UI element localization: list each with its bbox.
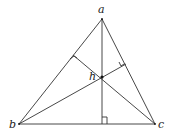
label-h: h bbox=[89, 70, 96, 83]
vertex-b-point bbox=[18, 123, 20, 125]
orthocenter-diagram: a b c h bbox=[0, 0, 173, 137]
right-angle-mark-bc bbox=[102, 117, 107, 124]
triangle-abc bbox=[19, 19, 155, 124]
label-a: a bbox=[98, 3, 105, 16]
vertex-c-point bbox=[154, 123, 156, 125]
vertex-a-point bbox=[101, 18, 103, 20]
orthocenter-point bbox=[100, 75, 103, 78]
altitude-from-b bbox=[19, 64, 126, 124]
label-c: c bbox=[158, 118, 164, 131]
label-b: b bbox=[9, 118, 16, 131]
altitude-from-c bbox=[73, 55, 155, 124]
